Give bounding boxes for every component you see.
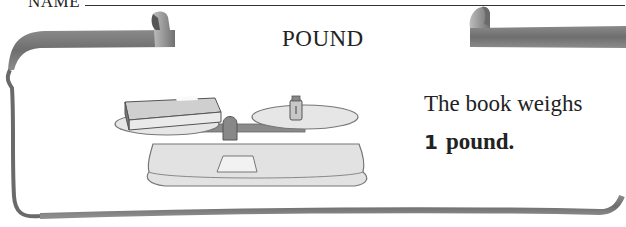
left-ribbon [8, 12, 175, 70]
right-pan-icon [252, 105, 358, 129]
sentence-line-1: The book weighs [424, 85, 582, 123]
scale-pivot-icon [223, 117, 237, 141]
weight-icon [290, 96, 302, 120]
right-ribbon [470, 7, 626, 48]
weight-sentence: The book weighs 1pound. [424, 85, 582, 161]
card-title: POUND [282, 26, 364, 52]
weight-number: 1 [424, 130, 438, 154]
sentence-line-2: 1pound. [424, 123, 582, 161]
scale-base-icon [147, 144, 366, 186]
weight-unit: pound. [446, 129, 514, 154]
balance-scale-illustration [105, 92, 375, 202]
